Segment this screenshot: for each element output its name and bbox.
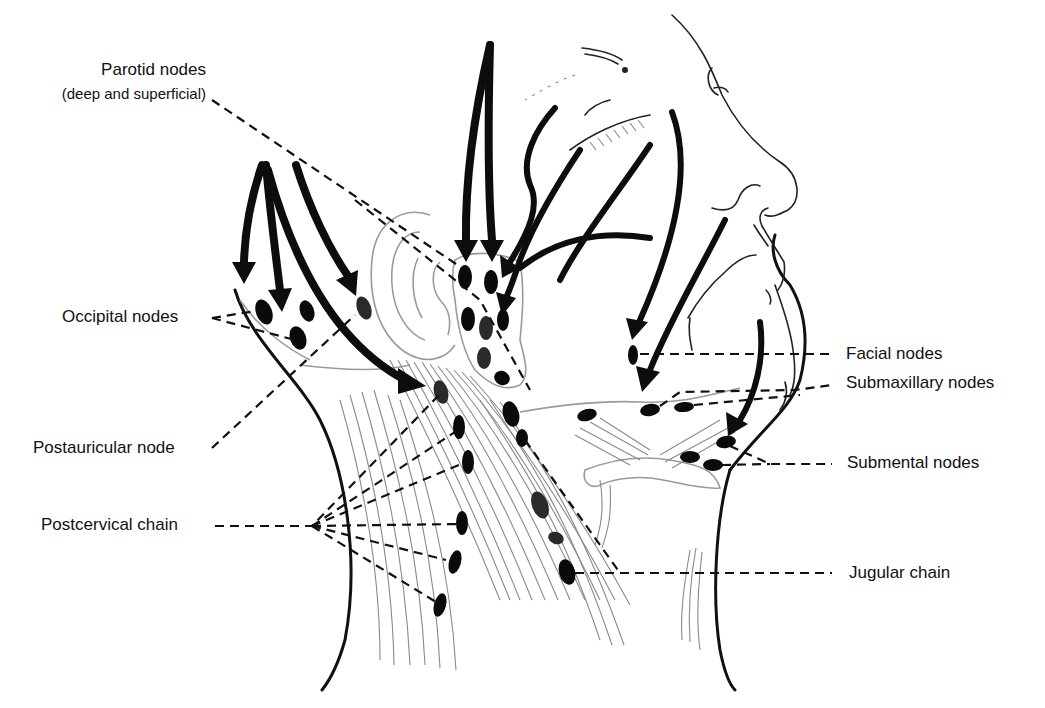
jugular-node xyxy=(500,399,522,428)
parotid-node xyxy=(497,309,509,331)
label-occipital-nodes: Occipital nodes xyxy=(62,307,178,327)
submental-node xyxy=(703,459,723,471)
submaxillary-node xyxy=(576,407,598,424)
parotid-node xyxy=(461,307,475,331)
label-facial-nodes: Facial nodes xyxy=(846,344,942,364)
label-postcervical-chain: Postcervical chain xyxy=(41,515,178,535)
parotid-node xyxy=(477,347,491,369)
postcervical-node xyxy=(462,450,474,474)
parotid-node xyxy=(484,270,498,294)
postcervical-node xyxy=(456,511,468,535)
postcervical-node xyxy=(446,549,464,575)
occipital-node xyxy=(297,298,318,323)
label-parotid-nodes-subtitle: (deep and superficial) xyxy=(20,84,206,104)
leader-submental xyxy=(730,446,832,464)
label-postauricular-node: Postauricular node xyxy=(33,438,175,458)
jugular-node xyxy=(556,557,578,586)
lymph-nodes xyxy=(252,265,737,618)
label-submaxillary-nodes: Submaxillary nodes xyxy=(846,373,994,393)
leader-postauricular xyxy=(212,315,355,448)
postcervical-node xyxy=(453,415,465,439)
jaw-hyoid xyxy=(520,388,740,488)
submaxillary-node xyxy=(674,401,695,413)
label-jugular-chain: Jugular chain xyxy=(849,563,950,583)
label-parotid-nodes: Parotid nodes xyxy=(60,60,206,80)
leader-postcervical xyxy=(312,430,458,526)
label-submental-nodes: Submental nodes xyxy=(847,453,979,473)
submental-node xyxy=(680,451,700,463)
jugular-node xyxy=(516,429,528,447)
leader-occipital xyxy=(212,310,262,318)
occipital-node xyxy=(252,297,276,327)
facial-node xyxy=(628,345,638,365)
submaxillary-node xyxy=(639,402,661,417)
leader-parotid xyxy=(212,100,462,268)
leader-submental xyxy=(722,464,770,465)
postauricular-node xyxy=(353,294,374,321)
leader-postcervical xyxy=(312,462,466,526)
